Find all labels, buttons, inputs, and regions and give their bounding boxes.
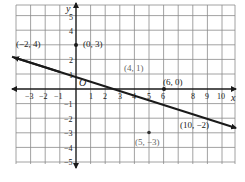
svg-text:−3: −3 [64,129,73,138]
grid [16,5,235,164]
svg-text:2: 2 [103,92,107,101]
svg-text:10: 10 [217,92,225,101]
label-point-4-1: (4, 1) [124,63,144,73]
svg-text:−5: −5 [64,158,73,167]
label-point-10-neg2: (10, −2) [180,120,209,130]
svg-text:9: 9 [205,92,209,101]
svg-text:−1: −1 [54,92,63,101]
x-axis-label: x [230,92,236,103]
svg-text:1: 1 [89,92,93,101]
point-6-0 [162,87,166,91]
svg-text:−4: −4 [64,144,73,153]
origin-label: O [79,77,86,88]
label-point-5-neg3: (5, −3) [135,137,160,147]
svg-text:−2: −2 [64,115,73,124]
svg-text:−2: −2 [39,92,48,101]
svg-text:3: 3 [118,92,122,101]
svg-text:1: 1 [69,71,73,80]
svg-text:4: 4 [69,27,73,36]
svg-text:6: 6 [161,92,165,101]
label-point-neg2-4: (−2, 4) [16,39,41,49]
svg-text:−3: −3 [25,92,34,101]
svg-text:5: 5 [147,92,151,101]
y-tick-labels: 5 4 2 1 −1 −2 −3 −4 −5 [64,13,73,167]
label-point-6-0: (6, 0) [163,77,183,87]
svg-text:2: 2 [69,56,73,65]
point-5-neg3 [147,131,151,135]
coordinate-plane-chart: y x O −3 −2 −1 1 2 3 4 5 6 8 9 10 5 4 2 … [0,0,245,182]
svg-text:5: 5 [69,13,73,22]
label-point-0-3: (0, 3) [83,39,103,49]
svg-text:4: 4 [132,92,136,101]
svg-text:8: 8 [191,92,195,101]
point-0-3 [74,43,78,47]
svg-text:−1: −1 [64,100,73,109]
